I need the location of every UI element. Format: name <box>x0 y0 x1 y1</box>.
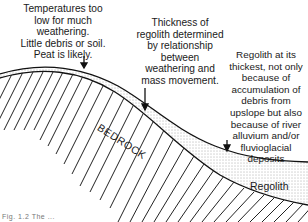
regolith-label: Regolith <box>250 180 289 192</box>
arrow-slope <box>142 88 148 110</box>
figure-caption: Fig. 1.2 The ... <box>2 213 55 220</box>
upland-annotation: Temperatures too low for much weathering… <box>4 3 122 61</box>
slope-annotation: Thickness of regolith determined by rela… <box>122 17 238 87</box>
valley-annotation: Regolith at its thickest, not only becau… <box>222 49 308 165</box>
